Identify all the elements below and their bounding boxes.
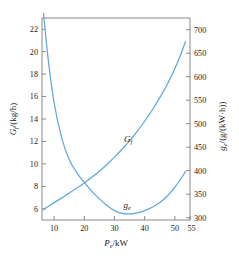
right-tick-label: 650 <box>194 49 206 58</box>
x-tick-label: 40 <box>141 224 149 233</box>
right-axis-title: ge/(g/(kW·h)) <box>217 101 228 150</box>
curve-label-gf: Gf <box>124 134 134 145</box>
x-tick-label: 55 <box>187 224 195 233</box>
left-tick-label: 10 <box>30 160 38 169</box>
right-axis-tick-labels: 300 350 400 450 500 550 600 650 700 <box>194 26 206 223</box>
left-axis-tick-labels: 6 8 10 12 14 16 18 20 22 <box>30 25 38 214</box>
x-axis-tick-labels: 10 20 30 40 50 55 <box>50 224 196 233</box>
right-tick-label: 600 <box>194 73 206 82</box>
curve-ge <box>44 13 186 214</box>
left-tick-label: 16 <box>30 92 38 101</box>
x-tick-label: 20 <box>80 224 88 233</box>
x-tick-label: 50 <box>171 224 179 233</box>
x-tick-label: 10 <box>50 224 58 233</box>
left-tick-label: 8 <box>34 182 38 191</box>
left-tick-label: 14 <box>30 115 38 124</box>
right-tick-label: 700 <box>194 26 206 35</box>
left-tick-label: 18 <box>30 70 38 79</box>
right-tick-label: 450 <box>194 143 206 152</box>
plot-frame <box>42 18 190 220</box>
x-tick-label: 30 <box>110 224 118 233</box>
right-tick-label: 350 <box>194 190 206 199</box>
right-tick-label: 300 <box>194 214 206 223</box>
left-tick-label: 20 <box>30 48 38 57</box>
right-tick-label: 500 <box>194 120 206 129</box>
left-tick-label: 12 <box>30 137 38 146</box>
left-axis-title: Gf/(kg/h) <box>8 103 19 136</box>
right-tick-label: 550 <box>194 96 206 105</box>
curve-gf <box>44 42 186 210</box>
left-tick-label: 22 <box>30 25 38 34</box>
left-axis-ticks <box>42 29 46 209</box>
x-axis-title: Pe/kW <box>103 238 128 249</box>
right-tick-label: 400 <box>194 167 206 176</box>
curve-label-ge: ge <box>123 200 131 211</box>
figure-container: 6 8 10 12 14 16 18 20 22 300 350 400 45 <box>0 0 239 267</box>
right-axis-ticks <box>186 30 190 218</box>
left-tick-label: 6 <box>34 205 38 214</box>
x-axis-ticks <box>54 216 190 220</box>
chart-svg: 6 8 10 12 14 16 18 20 22 300 350 400 45 <box>0 0 239 267</box>
